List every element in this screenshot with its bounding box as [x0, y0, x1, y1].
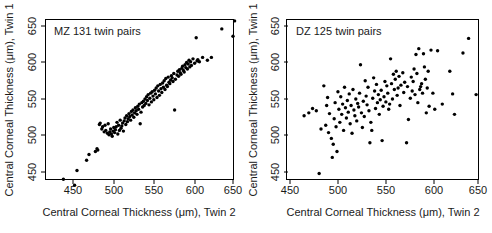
scatter-point: [191, 57, 194, 60]
scatter-point: [412, 67, 415, 70]
scatter-point: [429, 48, 432, 51]
scatter-point: [117, 124, 120, 127]
scatter-point: [379, 89, 382, 92]
scatter-point: [396, 86, 399, 89]
dz-plot-svg: 450 500 550 600 650 450 500 550 600 650: [246, 0, 492, 233]
scatter-point: [411, 89, 414, 92]
dz-x-axis: 450 500 550 600 650: [281, 180, 487, 196]
scatter-point: [418, 88, 421, 91]
mz-plot-svg: 450 500 550 600 650 450 500 550 600 650: [0, 0, 246, 233]
scatter-point: [415, 72, 418, 75]
scatter-point: [210, 56, 213, 59]
scatter-point: [120, 124, 123, 127]
scatter-point: [147, 103, 150, 106]
scatter-point: [357, 105, 360, 108]
scatter-point: [389, 57, 392, 60]
mz-xtick-label: 650: [224, 184, 242, 196]
scatter-point: [114, 128, 117, 131]
scatter-point: [386, 91, 389, 94]
scatter-point: [398, 104, 401, 107]
scatter-point: [75, 169, 78, 172]
scatter-point: [342, 129, 345, 132]
scatter-point: [158, 94, 161, 97]
scatter-point: [399, 83, 402, 86]
scatter-point: [337, 108, 340, 111]
scatter-point: [189, 60, 192, 63]
mz-xtick-label: 500: [105, 184, 123, 196]
scatter-point: [387, 108, 390, 111]
scatter-point: [116, 132, 119, 135]
scatter-point: [103, 124, 106, 127]
scatter-point: [402, 91, 405, 94]
mz-yaxis-title: Central Corneal Thickness (μm), Twin 1: [3, 4, 15, 197]
scatter-point: [111, 135, 114, 138]
scatter-point: [351, 88, 354, 91]
scatter-point: [371, 97, 374, 100]
scatter-panel-mz: 450 500 550 600 650 450 500 550 600 650: [0, 0, 246, 233]
dz-y-axis: 450 500 550 600 650: [269, 17, 288, 181]
mz-xtick-label: 600: [186, 184, 204, 196]
scatter-point: [179, 72, 182, 75]
scatter-point: [448, 70, 451, 73]
scatter-point: [414, 53, 417, 56]
scatter-point: [348, 122, 351, 125]
scatter-point: [370, 129, 373, 132]
scatter-point: [385, 84, 388, 87]
scatter-point: [122, 129, 125, 132]
scatter-point: [367, 109, 370, 112]
mz-plot-frame: [46, 20, 234, 180]
scatter-point: [324, 124, 327, 127]
scatter-point: [373, 89, 376, 92]
scatter-point: [411, 80, 414, 83]
scatter-point: [461, 51, 464, 54]
scatter-point: [328, 112, 331, 115]
scatter-point: [431, 91, 434, 94]
scatter-point: [381, 105, 384, 108]
scatter-point: [361, 126, 364, 129]
mz-xaxis-title: Central Corneal Thickness (μm), Twin 2: [43, 206, 236, 218]
dz-ytick-label: 450: [269, 163, 281, 181]
scatter-point: [336, 90, 339, 93]
scatter-point: [325, 104, 328, 107]
scatter-point: [171, 76, 174, 79]
mz-x-axis: 450 500 550 600 650: [64, 180, 242, 196]
scatter-point: [355, 119, 358, 122]
scatter-point: [315, 109, 318, 112]
scatter-point: [397, 75, 400, 78]
scatter-point: [344, 106, 347, 109]
dz-xtick-label: 650: [469, 184, 487, 196]
dz-xtick-label: 450: [281, 184, 299, 196]
scatter-point: [201, 56, 204, 59]
scatter-point: [198, 60, 201, 63]
scatter-point: [302, 114, 305, 117]
scatter-point: [388, 102, 391, 105]
scatter-point: [424, 78, 427, 81]
scatter-point: [173, 108, 176, 111]
scatter-point: [380, 139, 383, 142]
scatter-point: [73, 183, 76, 186]
scatter-point: [311, 107, 314, 110]
scatter-point: [132, 116, 135, 119]
scatter-point: [401, 71, 404, 74]
mz-panel-title: MZ 131 twin pairs: [54, 25, 141, 37]
scatter-point: [119, 118, 122, 121]
scatter-point: [394, 78, 397, 81]
scatter-point: [474, 93, 477, 96]
scatter-point: [348, 92, 351, 95]
twin-corneal-thickness-figure: 450 500 550 600 650 450 500 550 600 650: [0, 0, 492, 233]
scatter-point: [126, 120, 129, 123]
dz-ytick-label: 550: [269, 90, 281, 108]
mz-ytick-label: 550: [26, 90, 38, 108]
scatter-point: [451, 92, 454, 95]
scatter-point: [378, 113, 381, 116]
scatter-point: [349, 104, 352, 107]
scatter-point: [62, 178, 65, 181]
scatter-point: [427, 105, 430, 108]
scatter-point: [139, 110, 142, 113]
scatter-point: [407, 118, 410, 121]
mz-data-points: [62, 19, 237, 187]
scatter-point: [319, 127, 322, 130]
scatter-point: [436, 49, 439, 52]
scatter-point: [350, 132, 353, 135]
scatter-point: [364, 79, 367, 82]
